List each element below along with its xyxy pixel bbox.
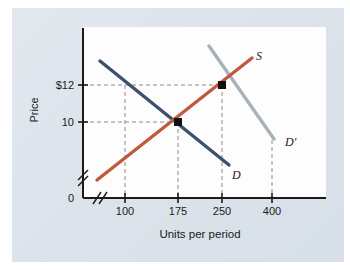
y-axis-tick-label-0: 0 (38, 192, 74, 204)
x-axis-tick-label-250: 250 (213, 205, 231, 217)
guide-lines (83, 85, 272, 198)
demand-curve-shifted (209, 46, 274, 139)
y-axis-tick-label-10: 10 (38, 116, 74, 128)
x-axis-tick-label-400: 400 (263, 205, 281, 217)
demand-curve (100, 61, 229, 165)
demand-shifted-curve-label: D′ (285, 135, 296, 150)
supply-curve-label: S (256, 49, 262, 64)
x-axis-title: Units per period (120, 228, 280, 240)
equilibrium-marker-initial (174, 118, 182, 126)
equilibrium-marker-new (218, 81, 226, 89)
y-axis-title: Price (28, 82, 40, 138)
demand-curve-label: D (232, 168, 241, 183)
x-axis-tick-label-175: 175 (169, 205, 187, 217)
x-axis-tick-label-100: 100 (116, 205, 134, 217)
y-axis-tick-label-12: $12 (38, 79, 74, 91)
figure-root: $12 10 0 100 175 250 400 Price Units per… (0, 0, 350, 270)
